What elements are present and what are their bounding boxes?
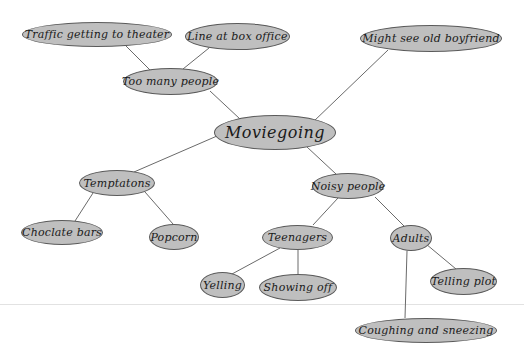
mind-map-canvas: MoviegoingToo many peopleTraffic getting… xyxy=(0,0,524,353)
link-adults-to-telling-plot xyxy=(426,244,456,269)
node-label: Telling plot xyxy=(431,275,496,288)
link-moviegoing-to-old-boyfriend xyxy=(313,50,388,122)
node-label: Showing off xyxy=(264,281,333,294)
node-label: Choclate bars xyxy=(22,226,102,239)
link-moviegoing-to-too-many-people xyxy=(210,91,240,119)
link-moviegoing-to-temptations xyxy=(134,136,217,172)
node-too-many-people: Too many people xyxy=(123,68,218,95)
connector-lines xyxy=(0,0,524,353)
node-old-boyfriend: Might see old boyfriend xyxy=(360,25,502,52)
node-yelling: Yelling xyxy=(200,272,245,298)
node-label: Popcorn xyxy=(150,231,197,244)
node-label: Too many people xyxy=(122,75,219,88)
node-label: Teenagers xyxy=(268,231,327,244)
node-traffic: Traffic getting to theater xyxy=(22,22,172,47)
node-line-box-office: Line at box office xyxy=(185,23,290,50)
node-label: Traffic getting to theater xyxy=(25,28,170,41)
node-coughing-sneezing: Coughing and sneezing xyxy=(355,318,497,343)
node-label: Adults xyxy=(393,232,430,245)
link-noisy-people-to-teenagers xyxy=(313,198,338,225)
node-label: Might see old boyfriend xyxy=(362,32,500,45)
link-too-many-people-to-traffic xyxy=(126,46,150,70)
node-moviegoing: Moviegoing xyxy=(214,115,336,150)
node-teenagers: Teenagers xyxy=(262,225,333,250)
node-label: Coughing and sneezing xyxy=(359,324,494,337)
node-popcorn: Popcorn xyxy=(149,224,199,250)
link-temptations-to-chocolate-bars xyxy=(75,193,93,221)
node-telling-plot: Telling plot xyxy=(430,268,497,295)
node-noisy-people: Noisy people xyxy=(312,173,384,199)
link-moviegoing-to-noisy-people xyxy=(307,147,336,174)
node-showing-off: Showing off xyxy=(259,274,337,301)
link-noisy-people-to-adults xyxy=(375,197,404,226)
link-adults-to-coughing-sneezing xyxy=(405,251,407,318)
link-teenagers-to-yelling xyxy=(232,248,280,274)
node-label: Line at box office xyxy=(187,30,287,43)
node-adults: Adults xyxy=(390,225,432,251)
node-chocolate-bars: Choclate bars xyxy=(21,220,103,245)
node-label: Moviegoing xyxy=(225,123,325,142)
node-label: Yelling xyxy=(203,279,242,292)
link-temptations-to-popcorn xyxy=(145,192,173,224)
node-label: Noisy people xyxy=(311,180,386,193)
link-too-many-people-to-line-box-office xyxy=(183,48,209,69)
node-label: Temptatons xyxy=(83,177,150,190)
node-temptations: Temptatons xyxy=(79,170,155,196)
